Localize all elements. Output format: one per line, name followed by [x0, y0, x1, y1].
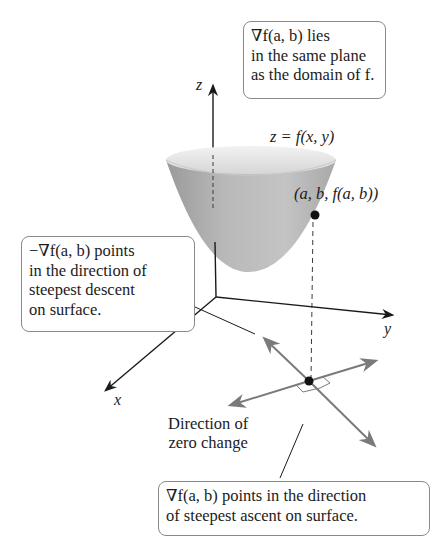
zero-change-line: zero change [168, 433, 248, 452]
callout-line: in the same plane [251, 46, 378, 66]
leader-bottom-callout [280, 424, 303, 478]
callout-line: on surface. [29, 300, 187, 320]
callout-line: ∇f(a, b) lies [251, 26, 378, 46]
zero-change-arrow-left [231, 381, 309, 405]
callout-line: ∇f(a, b) points in the direction [166, 486, 422, 506]
callout-gradient-in-domain-plane: ∇f(a, b) lies in the same plane as the d… [243, 21, 386, 99]
x-axis-label: x [114, 391, 121, 409]
y-axis [216, 297, 392, 315]
zero-change-line: Direction of [168, 414, 248, 433]
callout-line: steepest descent [29, 280, 187, 300]
callout-steepest-ascent: ∇f(a, b) points in the direction of stee… [158, 481, 430, 536]
callout-line: of steepest ascent on surface. [166, 506, 422, 526]
z-axis-label: z [196, 76, 202, 94]
surface-equation-label: z = f(x, y) [270, 127, 334, 146]
zero-change-arrow-right [309, 361, 375, 381]
callout-line: as the domain of f. [251, 65, 378, 85]
domain-point [305, 377, 314, 386]
y-axis-label: y [384, 320, 391, 338]
z-axis-lower [215, 242, 216, 297]
surface-point [311, 211, 320, 220]
gradient-arrow-descent [265, 339, 309, 381]
callout-line: in the direction of [29, 261, 187, 281]
zero-change-label: Direction of zero change [168, 414, 248, 452]
point-coordinates-label: (a, b, f(a, b)) [294, 184, 378, 203]
callout-line: −∇f(a, b) points [29, 241, 187, 261]
gradient-arrow-ascent [309, 381, 374, 445]
callout-steepest-descent: −∇f(a, b) points in the direction of ste… [21, 236, 195, 332]
projection-dashed-line [311, 222, 313, 381]
